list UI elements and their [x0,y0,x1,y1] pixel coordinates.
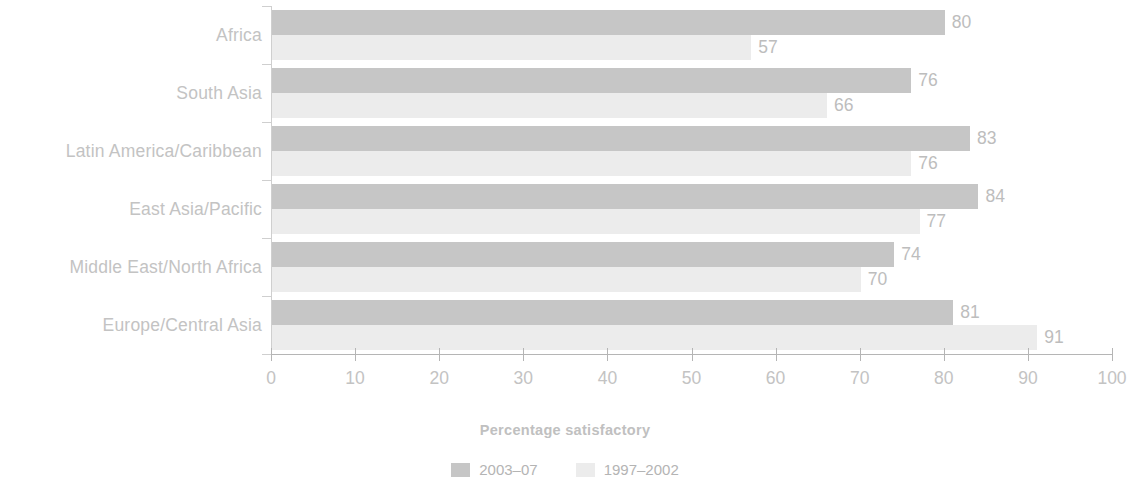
y-axis-tick [262,6,271,7]
y-axis-tick [262,296,271,297]
bar-value-label: 84 [985,184,1004,209]
legend-item-1997-2002: 1997–2002 [576,461,679,479]
bar-group: 7666 [272,68,1112,126]
x-axis-title: Percentage satisfactory [0,422,1130,438]
y-axis-tick [262,122,271,123]
x-axis-tick [692,348,693,361]
x-axis-tick-label: 50 [682,368,701,388]
bar [272,325,1037,350]
category-label-east-asia-pacific: East Asia/Pacific [0,199,262,219]
bar [272,242,894,267]
x-axis-tick-label: 70 [850,368,869,388]
y-axis-tick [262,64,271,65]
y-axis-tick [262,238,271,239]
x-axis-tick-label: 10 [345,368,364,388]
bar-value-label: 76 [918,68,937,93]
bar [272,68,911,93]
bar-value-label: 77 [927,209,946,234]
bar-value-label: 81 [960,300,979,325]
x-axis-tick [776,348,777,361]
bar-value-label: 57 [758,35,777,60]
x-axis-tick [607,348,608,361]
y-axis-tick [262,180,271,181]
x-axis-tick [439,348,440,361]
legend-swatch-icon [451,463,470,477]
bar [272,151,911,176]
bar-group: 7470 [272,242,1112,300]
x-axis-tick-label: 20 [429,368,448,388]
bar-value-label: 76 [918,151,937,176]
legend-item-2003-07: 2003–07 [451,461,537,479]
bar-group: 8477 [272,184,1112,242]
category-label-middle-east-north-africa: Middle East/North Africa [0,257,262,277]
bar-value-label: 91 [1044,325,1063,350]
y-axis-tick [262,354,271,355]
bar-group: 8057 [272,10,1112,68]
bar [272,267,861,292]
category-label-africa: Africa [0,25,262,45]
x-axis-tick [944,348,945,361]
x-axis-tick-label: 40 [598,368,617,388]
x-axis-tick-label: 80 [934,368,953,388]
bar [272,184,978,209]
bar [272,93,827,118]
legend-swatch-icon [576,463,595,477]
plot-area: 805776668376847774708191 [271,6,1112,354]
bar [272,10,945,35]
legend-label: 1997–2002 [604,461,679,479]
bar [272,209,920,234]
x-axis-tick [271,348,272,361]
x-axis-tick [1112,348,1113,361]
x-axis-tick [1028,348,1029,361]
x-axis: 0102030405060708090100 [271,354,1113,410]
x-axis-tick [860,348,861,361]
x-axis-tick [355,348,356,361]
x-axis-tick-label: 60 [766,368,785,388]
category-label-south-asia: South Asia [0,83,262,103]
legend-label: 2003–07 [479,461,537,479]
bar-chart: Africa South Asia Latin America/Caribbea… [0,0,1130,487]
bar-value-label: 70 [868,267,887,292]
category-axis: Africa South Asia Latin America/Caribbea… [0,6,262,354]
x-axis-tick-label: 100 [1097,368,1126,388]
x-axis-tick-label: 90 [1018,368,1037,388]
category-label-europe-central-asia: Europe/Central Asia [0,315,262,335]
x-axis-tick-label: 30 [514,368,533,388]
category-label-latin-america-caribbean: Latin America/Caribbean [0,141,262,161]
bar [272,300,953,325]
bar-group: 8376 [272,126,1112,184]
bar-value-label: 80 [952,10,971,35]
bar-value-label: 74 [901,242,920,267]
bar [272,35,751,60]
bar [272,126,970,151]
x-axis-tick-label: 0 [266,368,276,388]
chart-legend: 2003–07 1997–2002 [0,458,1130,482]
bar-value-label: 83 [977,126,996,151]
x-axis-tick [523,348,524,361]
bar-value-label: 66 [834,93,853,118]
